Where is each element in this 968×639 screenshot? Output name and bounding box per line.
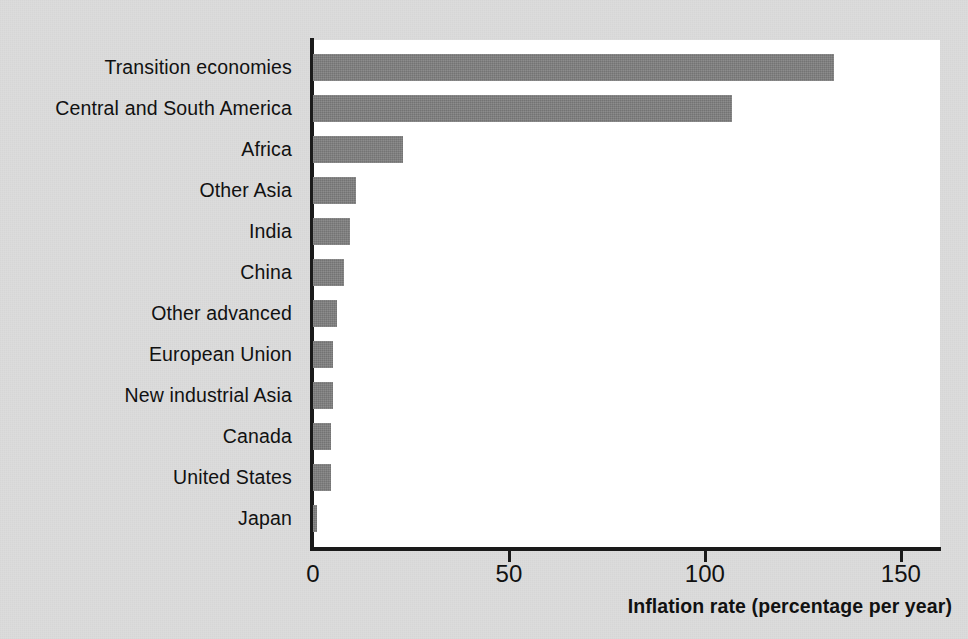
bar-row — [313, 498, 940, 539]
bar — [313, 341, 333, 368]
category-label: Canada — [0, 416, 300, 457]
bar — [313, 177, 356, 204]
category-label: Central and South America — [0, 88, 300, 129]
bar — [313, 259, 344, 286]
bar-row — [313, 252, 940, 293]
category-label: New industrial Asia — [0, 375, 300, 416]
bar-row — [313, 129, 940, 170]
bar — [313, 505, 317, 532]
category-label: United States — [0, 457, 300, 498]
x-tick-label: 0 — [306, 560, 319, 588]
category-label: European Union — [0, 334, 300, 375]
category-label: Other advanced — [0, 293, 300, 334]
category-label: Africa — [0, 129, 300, 170]
x-axis-title: Inflation rate (percentage per year) — [628, 595, 952, 618]
category-axis-labels: Transition economiesCentral and South Am… — [0, 47, 300, 539]
category-label: Japan — [0, 498, 300, 539]
bar — [313, 382, 333, 409]
bar — [313, 95, 732, 122]
category-label: Transition economies — [0, 47, 300, 88]
x-tick-label: 150 — [881, 560, 921, 588]
bar-row — [313, 334, 940, 375]
category-label: Other Asia — [0, 170, 300, 211]
bar-row — [313, 375, 940, 416]
bar-series — [313, 47, 940, 539]
chart-page: Transition economiesCentral and South Am… — [0, 0, 968, 639]
bar — [313, 218, 350, 245]
x-tick-label: 50 — [496, 560, 523, 588]
bar — [313, 54, 834, 81]
category-label: India — [0, 211, 300, 252]
bar — [313, 300, 337, 327]
bar-row — [313, 416, 940, 457]
bar-row — [313, 170, 940, 211]
x-axis-line — [310, 547, 941, 551]
bar — [313, 423, 331, 450]
bar-row — [313, 293, 940, 334]
category-label: China — [0, 252, 300, 293]
bar-row — [313, 211, 940, 252]
x-tick-label: 100 — [685, 560, 725, 588]
bar-row — [313, 47, 940, 88]
bar-row — [313, 88, 940, 129]
bar-row — [313, 457, 940, 498]
bar — [313, 136, 403, 163]
bar — [313, 464, 331, 491]
